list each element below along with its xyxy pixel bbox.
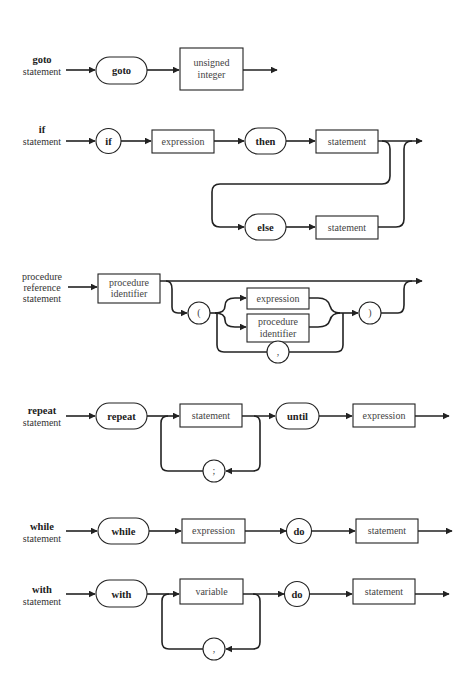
if-title-rest: statement bbox=[23, 136, 62, 147]
goto-statement-diagram: goto statement goto unsigned integer bbox=[23, 48, 277, 90]
param-expression-label: expression bbox=[257, 293, 300, 304]
while-expression-label: expression bbox=[192, 525, 235, 536]
while-statement-label: statement bbox=[368, 525, 407, 536]
with-keyword-label: with bbox=[112, 589, 132, 600]
if-statement-diagram: if statement if expression then statemen… bbox=[23, 124, 422, 240]
if-statement2-label: statement bbox=[328, 222, 367, 233]
param-branch-line bbox=[166, 281, 187, 313]
then-keyword-label: then bbox=[256, 136, 276, 147]
procedure-title-2: reference bbox=[23, 282, 61, 293]
from-expression-line bbox=[309, 298, 340, 313]
if-title-bold: if bbox=[39, 124, 46, 135]
if-expression-label: expression bbox=[162, 136, 205, 147]
while-title-bold: while bbox=[30, 521, 54, 532]
while-keyword-label: while bbox=[112, 526, 136, 537]
repeat-expression-label: expression bbox=[363, 410, 406, 421]
rparen-label: ) bbox=[368, 307, 371, 319]
with-title-bold: with bbox=[32, 584, 52, 595]
syntax-diagrams: goto statement goto unsigned integer if … bbox=[0, 0, 475, 686]
repeat-statement-diagram: repeat statement repeat statement ; unti… bbox=[23, 403, 449, 482]
repeat-title-bold: repeat bbox=[28, 405, 57, 416]
while-statement-diagram: while statement while expression do stat… bbox=[23, 518, 452, 544]
with-statement-label: statement bbox=[365, 586, 404, 597]
with-title-rest: statement bbox=[23, 596, 62, 607]
with-do-label: do bbox=[291, 589, 302, 600]
param-identifier-label-1: procedure bbox=[258, 316, 299, 327]
repeat-title-rest: statement bbox=[23, 417, 62, 428]
until-keyword-label: until bbox=[287, 411, 308, 422]
goto-keyword-label: goto bbox=[112, 65, 131, 76]
procedure-title-1: procedure bbox=[22, 271, 63, 282]
goto-title-rest: statement bbox=[23, 66, 62, 77]
unsigned-integer-label-1: unsigned bbox=[193, 57, 229, 68]
with-comma-label: , bbox=[213, 643, 216, 654]
else-branch-line bbox=[212, 141, 390, 227]
procedure-identifier-label-1: procedure bbox=[109, 277, 150, 288]
rparen-rejoin-line bbox=[381, 281, 412, 313]
to-expression-line bbox=[215, 298, 246, 313]
param-identifier-label-2: identifier bbox=[260, 328, 297, 339]
to-identifier-line bbox=[215, 313, 246, 327]
while-title-rest: statement bbox=[23, 533, 62, 544]
procedure-reference-statement-diagram: procedure reference statement procedure … bbox=[22, 271, 422, 363]
repeat-keyword-label: repeat bbox=[107, 411, 136, 422]
procedure-identifier-label-2: identifier bbox=[111, 288, 148, 299]
with-statement-diagram: with statement with variable , do statem… bbox=[23, 579, 449, 660]
comma-label: , bbox=[277, 346, 280, 357]
from-identifier-line bbox=[309, 313, 340, 327]
while-do-label: do bbox=[293, 526, 304, 537]
if-keyword-label: if bbox=[105, 136, 112, 147]
if-statement1-label: statement bbox=[328, 136, 367, 147]
repeat-statement-label: statement bbox=[192, 410, 231, 421]
else-keyword-label: else bbox=[257, 222, 274, 233]
unsigned-integer-label-2: integer bbox=[198, 69, 226, 80]
goto-title-bold: goto bbox=[32, 54, 51, 65]
semicolon-label: ; bbox=[213, 465, 216, 476]
variable-label: variable bbox=[195, 586, 228, 597]
procedure-title-3: statement bbox=[23, 293, 62, 304]
